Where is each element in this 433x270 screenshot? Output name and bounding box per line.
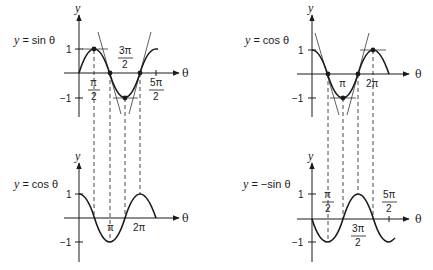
svg-text:2: 2	[91, 91, 97, 102]
svg-text:π: π	[324, 189, 331, 200]
y-axis-label: y	[307, 1, 314, 15]
y-tick-1: 1	[66, 189, 72, 200]
y-tick-neg1: −1	[292, 237, 304, 248]
y-tick-neg1: −1	[292, 93, 304, 104]
panel-cos: y = cos θ y θ 1 −1 π 2π	[244, 1, 422, 117]
x-axis-label: θ	[415, 68, 422, 81]
diagram-canvas: y = sin θ y θ 1 −1 π 2 3π 2 5π 2	[0, 0, 433, 270]
y-tick-1: 1	[298, 189, 304, 200]
svg-text:2: 2	[355, 237, 361, 248]
x-axis-label: θ	[182, 67, 189, 80]
y-tick-neg1: −1	[60, 237, 72, 248]
panel-cos-derivative-title: y = cos θ	[13, 177, 58, 191]
x-axis-label: θ	[415, 213, 422, 226]
svg-text:2: 2	[325, 203, 331, 214]
y-axis-label: y	[74, 149, 81, 163]
x-tick-pi-over-2: π 2	[88, 77, 100, 102]
x-tick-2pi: 2π	[366, 78, 379, 89]
panel-sin: y = sin θ y θ 1 −1 π 2 3π 2 5π 2	[13, 1, 189, 117]
svg-text:3π: 3π	[119, 45, 132, 56]
panel-neg-sin-derivative: y = −sin θ y θ 1 −1 π 2 3π 2 5π 2	[242, 149, 422, 262]
derivative-diagram: y = sin θ y θ 1 −1 π 2 3π 2 5π 2	[0, 0, 433, 270]
svg-text:2: 2	[153, 91, 159, 102]
y-tick-neg1: −1	[60, 93, 72, 104]
svg-text:2: 2	[122, 59, 128, 70]
panel-cos-title: y = cos θ	[244, 33, 289, 47]
svg-text:π: π	[90, 77, 97, 88]
x-tick-pi: π	[107, 222, 114, 233]
y-axis-label: y	[74, 1, 81, 15]
x-tick-5pi-over-2: 5π 2	[382, 189, 397, 214]
x-tick-5pi-over-2: 5π 2	[149, 77, 164, 102]
neg-sin-curve	[312, 194, 395, 242]
y-tick-1: 1	[66, 44, 72, 55]
svg-text:2: 2	[386, 203, 392, 214]
panel-neg-sin-title: y = −sin θ	[242, 177, 291, 191]
svg-text:5π: 5π	[383, 189, 396, 200]
panel-cos-derivative: y = cos θ y θ 1 −1 π 2π	[13, 149, 189, 262]
x-axis-label: θ	[182, 212, 189, 225]
x-tick-pi: π	[339, 78, 346, 89]
svg-text:5π: 5π	[150, 77, 163, 88]
y-axis-label: y	[307, 149, 314, 163]
panel-sin-title: y = sin θ	[13, 33, 55, 47]
svg-text:3π: 3π	[352, 223, 365, 234]
dashed-connectors-left	[94, 50, 140, 242]
x-tick-3pi-over-2: 3π 2	[351, 223, 366, 248]
y-tick-1: 1	[298, 45, 304, 56]
x-tick-3pi-over-2: 3π 2	[118, 45, 133, 70]
x-tick-2pi: 2π	[133, 222, 146, 233]
